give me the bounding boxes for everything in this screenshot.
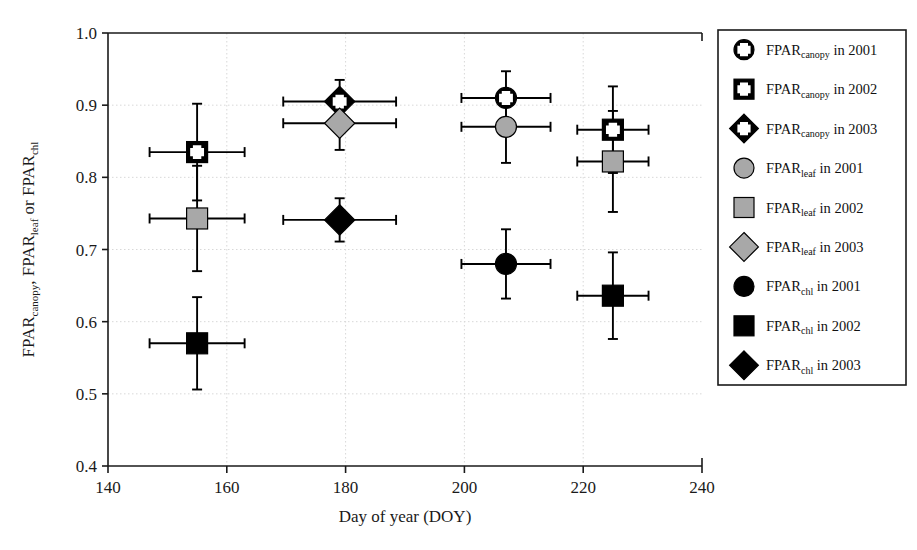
data-marker-5-0 [325,108,355,138]
legend-item-0[interactable]: FPARcanopy in 2001 [720,30,904,69]
y-axis-title-sub-1: leaf [28,218,40,235]
data-marker-7-0 [187,333,208,354]
data-marker-7-0-shape [187,333,208,354]
data-marker-1-0 [187,142,208,163]
y-axis-title-sub-0: canopy [28,284,40,316]
legend-item-5[interactable]: FPARleaf in 2003 [720,227,904,266]
legend-marker-4 [734,198,754,218]
data-marker-8-0 [325,205,355,235]
y-axis-title-text: FPARcanopy, FPARleaf or FPARchl [19,142,40,358]
legend-item-6[interactable]: FPARchl in 2001 [720,267,904,306]
data-marker-3-0 [495,116,516,137]
y-axis-title-base-2: FPAR [19,154,38,196]
legend-item-4[interactable]: FPARleaf in 2002 [720,188,904,227]
y-axis-title: FPARcanopy, FPARleaf or FPARchl [19,142,40,358]
axes: 0.40.50.60.70.80.91.0140160180200220240D… [19,24,715,526]
legend-marker-3-shape [734,158,754,178]
legend-marker-0 [734,40,754,60]
data-marker-6-0 [495,253,516,274]
x-tick-label-0: 140 [95,478,121,497]
y-tick-label-3: 0.7 [76,241,98,260]
data-marker-0-0 [495,87,516,108]
legend-item-8[interactable]: FPARchl in 2003 [720,346,904,385]
data-marker-4-0-shape [187,208,208,229]
legend-marker-7 [734,316,754,336]
y-tick-label-4: 0.8 [76,168,97,187]
legend-marker-4-shape [734,198,754,218]
y-tick-label-1: 0.5 [76,385,97,404]
legend-marker-6-shape [734,276,754,296]
data-marker-4-0 [187,208,208,229]
x-tick-label-2: 180 [333,478,359,497]
y-tick-label-5: 0.9 [76,96,97,115]
legend-item-3[interactable]: FPARleaf in 2001 [720,148,904,187]
x-tick-label-5: 240 [689,478,715,497]
data-marker-7-1 [602,285,623,306]
data-marker-5-0-shape [325,108,355,138]
legend-label-8: FPARchl in 2003 [766,357,861,376]
data-marker-7-1-shape [602,285,623,306]
y-axis-title-tail-1: or [19,196,38,219]
x-tick-label-3: 200 [452,478,478,497]
data-marker-3-0-shape [495,116,516,137]
x-axis-title: Day of year (DOY) [339,507,472,526]
data-marker-4-1-shape [602,151,623,172]
x-tick-label-4: 220 [570,478,596,497]
y-tick-label-2: 0.6 [76,313,97,332]
y-tick-label-6: 1.0 [76,24,97,43]
legend-label-7: FPARchl in 2002 [766,318,861,337]
data-layer [150,71,649,389]
legend-marker-6 [734,276,754,296]
legend-label-6: FPARchl in 2001 [766,278,861,297]
x-tick-label-1: 160 [214,478,240,497]
y-tick-label-0: 0.4 [76,457,98,476]
legend: FPARcanopy in 2001FPARcanopy in 2002FPAR… [718,30,906,385]
y-axis-title-tail-0: , [19,276,38,285]
legend-marker-7-shape [734,316,754,336]
legend-item-2[interactable]: FPARcanopy in 2003 [720,109,904,148]
legend-marker-1 [734,79,754,99]
chart-figure: 0.40.50.60.70.80.91.0140160180200220240D… [0,0,917,550]
data-marker-8-0-shape [325,205,355,235]
data-marker-1-1 [602,119,623,140]
data-marker-6-0-shape [495,253,516,274]
y-axis-title-sub-2: chl [28,142,40,155]
y-axis-title-base-1: FPAR [19,235,38,277]
y-axis-title-base-0: FPAR [19,316,38,358]
data-marker-4-1 [602,151,623,172]
legend-item-1[interactable]: FPARcanopy in 2002 [720,69,904,108]
legend-item-7[interactable]: FPARchl in 2002 [720,306,904,345]
legend-marker-3 [734,158,754,178]
chart-canvas: 0.40.50.60.70.80.91.0140160180200220240D… [0,0,917,550]
